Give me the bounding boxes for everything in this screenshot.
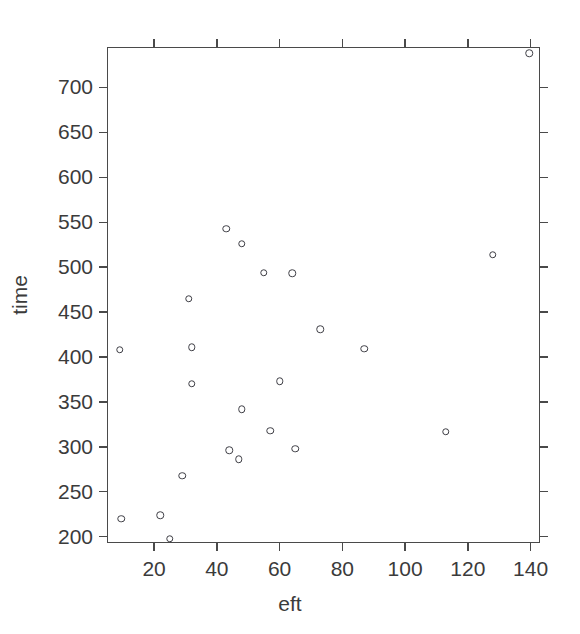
y-tick-label-400: 400 [58,345,93,369]
x-tick-label-60: 60 [268,557,291,581]
data-point [157,511,165,519]
x-tick-label-120: 120 [450,557,485,581]
y-axis-label-container: time [0,0,40,590]
data-point [179,472,187,480]
y-axis-tick-right-700 [540,87,548,88]
data-point [238,405,246,413]
y-axis-tick-left-500 [99,266,107,267]
y-tick-label-500: 500 [58,255,93,279]
data-point [292,445,300,453]
x-axis-tick-top-100 [404,39,405,47]
y-axis-tick-right-600 [540,177,548,178]
y-axis-tick-left-250 [99,491,107,492]
data-point [222,225,230,233]
x-axis-tick-bottom-40 [216,543,217,551]
data-point [185,295,193,303]
y-axis-tick-left-450 [99,311,107,312]
data-point [317,325,325,333]
y-axis-tick-right-400 [540,356,548,357]
x-tick-label-40: 40 [205,557,228,581]
data-point [260,269,268,277]
y-axis-tick-left-350 [99,401,107,402]
x-tick-label-140: 140 [513,557,548,581]
x-axis-tick-bottom-80 [342,543,343,551]
x-axis-tick-bottom-120 [467,543,468,551]
data-point [238,240,246,248]
y-axis-tick-right-450 [540,311,548,312]
y-axis-tick-left-400 [99,356,107,357]
y-axis-tick-left-200 [99,536,107,537]
y-axis-label: time [8,275,32,315]
y-axis-tick-right-250 [540,491,548,492]
x-axis-tick-bottom-140 [530,543,531,551]
x-axis-tick-top-40 [216,39,217,47]
y-tick-label-650: 650 [58,120,93,144]
y-axis-tick-right-500 [540,266,548,267]
data-point [188,343,196,351]
x-axis-tick-top-60 [279,39,280,47]
data-point [276,378,284,386]
y-tick-label-250: 250 [58,480,93,504]
y-tick-label-450: 450 [58,300,93,324]
data-point [188,380,196,388]
x-axis-tick-bottom-20 [153,543,154,551]
data-point [361,345,369,353]
y-axis-tick-left-650 [99,132,107,133]
data-point [489,251,497,259]
x-axis-tick-top-80 [342,39,343,47]
x-axis-tick-top-120 [467,39,468,47]
x-axis-tick-top-20 [153,39,154,47]
x-axis-tick-top-140 [530,39,531,47]
y-tick-label-600: 600 [58,165,93,189]
y-axis-tick-left-550 [99,222,107,223]
y-axis-tick-right-550 [540,222,548,223]
data-point [226,447,234,455]
data-point [525,50,533,58]
data-point [166,535,174,543]
x-tick-label-100: 100 [388,557,423,581]
data-point [116,346,124,354]
scatter-plot-figure: 20406080100120140 2002503003504004505005… [0,0,580,634]
x-axis-tick-bottom-100 [404,543,405,551]
y-tick-label-700: 700 [58,75,93,99]
y-tick-label-300: 300 [58,435,93,459]
y-axis-tick-left-600 [99,177,107,178]
x-tick-label-80: 80 [331,557,354,581]
x-axis-tick-bottom-60 [279,543,280,551]
x-axis-label: eft [0,592,580,616]
y-tick-label-200: 200 [58,525,93,549]
data-point [235,456,243,464]
y-axis-tick-right-200 [540,536,548,537]
y-axis-tick-left-300 [99,446,107,447]
y-axis-tick-right-350 [540,401,548,402]
data-point [117,515,125,523]
y-tick-label-350: 350 [58,390,93,414]
data-points-layer [107,47,540,543]
y-axis-tick-right-300 [540,446,548,447]
data-point [442,428,450,436]
y-tick-label-550: 550 [58,210,93,234]
y-axis-tick-right-650 [540,132,548,133]
data-point [288,270,296,278]
data-point [266,427,274,435]
x-tick-label-20: 20 [142,557,165,581]
y-axis-tick-left-700 [99,87,107,88]
